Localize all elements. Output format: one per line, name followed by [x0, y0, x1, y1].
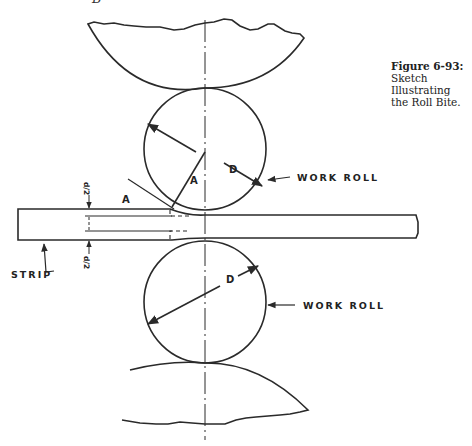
bite-radius-line — [172, 152, 205, 207]
upper-diameter-line — [148, 124, 196, 152]
lower-backup-roll — [122, 362, 308, 424]
lower-work-roll-label: WORK ROLL — [303, 300, 385, 311]
strip-label: STRIP — [11, 269, 52, 280]
figure-caption: Figure 6-93: Sketch Illustrating the Rol… — [391, 60, 471, 108]
caption-line-2: Illustrating — [391, 84, 471, 96]
strip — [18, 209, 418, 240]
half-thickness-label-top: d/2 — [82, 182, 91, 195]
strip-leader — [44, 244, 54, 272]
caption-line-1: Sketch — [391, 72, 471, 84]
angle-label-outer: A — [122, 194, 130, 205]
diameter-label-lower: D — [226, 274, 234, 285]
upper-backup-roll — [88, 19, 304, 90]
caption-line-3: the Roll Bite. — [391, 96, 471, 108]
bite-tangent-line — [128, 179, 174, 209]
angle-label-inner: A — [190, 175, 198, 186]
half-thickness-label-bottom: d/2 — [82, 256, 91, 269]
upper-work-roll-label: WORK ROLL — [297, 172, 379, 183]
diameter-label-upper: D — [229, 164, 237, 175]
upper-work-roll-leader — [268, 177, 290, 180]
lower-diameter-line — [148, 286, 220, 324]
figure-number: Figure 6-93: — [391, 60, 471, 72]
